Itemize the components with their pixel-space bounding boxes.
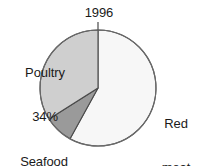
slice-label-red-meat-name-line1: Red (154, 117, 198, 132)
slice-label-seafood: Seafood 8% (4, 126, 84, 166)
slice-label-poultry-percent: 34% (6, 110, 84, 125)
slice-label-poultry-name: Poultry (6, 66, 84, 81)
pie-chart-figure: 1996 Poultry 34% Seafood 8% Red meat 58% (0, 0, 198, 166)
slice-label-seafood-name: Seafood (4, 155, 84, 166)
slice-label-red-meat: Red meat 58% (154, 88, 198, 166)
slice-label-red-meat-name-line2: meat (154, 161, 198, 166)
chart-title: 1996 (0, 6, 198, 21)
